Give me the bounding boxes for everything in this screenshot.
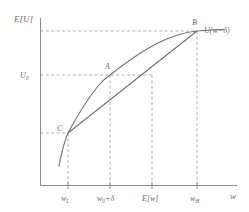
chord-line-cb <box>68 31 197 133</box>
y-tick-label-u0: U0 <box>20 71 29 81</box>
x-tick-w0d-suffix: +δ <box>105 194 114 203</box>
point-label-c: C <box>57 124 63 133</box>
y-axis-label: E[U] <box>13 14 33 24</box>
utility-curve <box>59 30 224 167</box>
x-axis-label: w <box>230 191 236 201</box>
y-tick-u0-sub: 0 <box>26 75 29 81</box>
x-tick-label-wl: wL <box>61 194 69 204</box>
curve-label-utility: U(w−δ) <box>204 26 230 35</box>
x-tick-label-w0delta: w0+δ <box>97 194 114 204</box>
x-tick-wl-sub: L <box>65 198 69 204</box>
expected-utility-chart: E[U] w U0 wL w0+δ E[w] wH A B C <box>0 0 249 212</box>
x-tick-labels: wL w0+δ E[w] wH <box>61 194 200 204</box>
reference-lines <box>41 31 198 185</box>
point-label-a: A <box>104 62 110 71</box>
x-tick-wh-sub: H <box>194 198 200 204</box>
x-tick-ew-main: E[w] <box>141 194 158 203</box>
x-tick-label-ew: E[w] <box>141 194 158 203</box>
point-label-b: B <box>192 18 197 27</box>
chart-canvas: E[U] w U0 wL w0+δ E[w] wH A B C <box>0 0 249 212</box>
svg-text:U0: U0 <box>20 71 29 81</box>
x-tick-label-wh: wH <box>190 194 200 204</box>
axes <box>41 18 238 186</box>
